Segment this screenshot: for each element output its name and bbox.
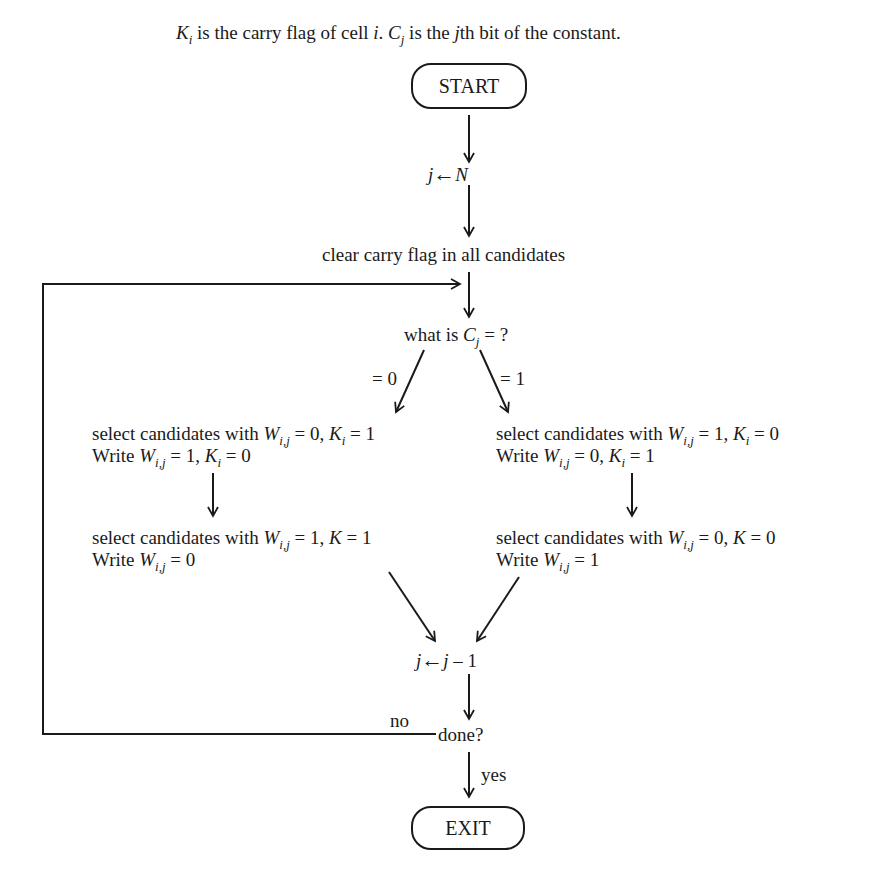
k-symbol: K: [329, 527, 342, 548]
decision-suffix: = ?: [479, 324, 508, 345]
assign-arrow-icon: ←: [433, 161, 455, 186]
w-subscript: i,j: [559, 559, 569, 574]
text: = 0: [749, 423, 779, 444]
w-subscript: i,j: [559, 455, 569, 470]
w-symbol: W: [543, 549, 559, 570]
right-step2-select: select candidates with Wi,j = 0, K = 0: [496, 527, 775, 549]
init-rhs: N: [455, 164, 468, 185]
text: = 0: [746, 527, 776, 548]
arrow-right-to-decrement: [477, 577, 519, 641]
w-symbol: W: [543, 445, 559, 466]
left-step2-write: Write Wi,j = 0: [92, 549, 371, 571]
assign-arrow-icon: ←: [421, 647, 443, 672]
w-symbol: W: [263, 423, 279, 444]
text: = 0: [166, 549, 196, 570]
clear-carry-step: clear carry flag in all candidates: [322, 244, 565, 266]
decision-node: what is Cj = ?: [404, 324, 508, 346]
text: = 1: [625, 445, 655, 466]
w-subscript: i,j: [155, 559, 165, 574]
w-symbol: W: [139, 445, 155, 466]
w-symbol: W: [667, 423, 683, 444]
k-symbol: K: [609, 445, 622, 466]
text: = 1,: [290, 527, 329, 548]
text: = 0,: [694, 527, 733, 548]
w-subscript: i,j: [155, 455, 165, 470]
loop-back-line: [43, 284, 460, 734]
k-symbol: K: [733, 423, 746, 444]
text: select candidates with: [92, 527, 263, 548]
w-symbol: W: [139, 549, 155, 570]
c-symbol: C: [388, 22, 401, 43]
start-terminal: START: [411, 63, 527, 109]
left-step1-select: select candidates with Wi,j = 0, Ki = 1: [92, 423, 375, 445]
right-step2-write: Write Wi,j = 1: [496, 549, 775, 571]
start-label: START: [439, 75, 500, 98]
exit-terminal: EXIT: [411, 806, 525, 850]
text: = 0,: [570, 445, 609, 466]
w-subscript: i,j: [279, 537, 289, 552]
w-symbol: W: [263, 527, 279, 548]
header-text-3: is the: [404, 22, 454, 43]
decision-c-symbol: C: [463, 324, 476, 345]
left-step1-write: Write Wi,j = 1, Ki = 0: [92, 445, 375, 467]
text: Write: [92, 445, 139, 466]
decrement-step: j←j – 1: [416, 649, 477, 672]
text: = 1: [570, 549, 600, 570]
right-step1-select: select candidates with Wi,j = 1, Ki = 0: [496, 423, 779, 445]
branch-zero-label: = 0: [372, 368, 397, 390]
header-text-2: .: [379, 22, 389, 43]
k-symbol: K: [733, 527, 746, 548]
right-step1-write: Write Wi,j = 0, Ki = 1: [496, 445, 779, 467]
no-label: no: [390, 710, 409, 732]
header-text-1: is the carry flag of cell: [192, 22, 373, 43]
text: = 1: [342, 527, 372, 548]
w-subscript: i,j: [279, 433, 289, 448]
init-step: j←N: [428, 163, 468, 186]
branch-one-label: = 1: [500, 368, 525, 390]
right-step2: select candidates with Wi,j = 0, K = 0 W…: [496, 527, 775, 571]
w-subscript: i,j: [683, 433, 693, 448]
exit-label: EXIT: [445, 817, 491, 840]
text: select candidates with: [496, 527, 667, 548]
decrement-rhs-op: – 1: [449, 650, 478, 671]
right-step1: select candidates with Wi,j = 1, Ki = 0 …: [496, 423, 779, 467]
header-text-4: th bit of the constant.: [460, 22, 621, 43]
text: Write: [496, 445, 543, 466]
text: = 0,: [290, 423, 329, 444]
arrow-left-to-decrement: [389, 572, 435, 641]
left-step2-select: select candidates with Wi,j = 1, K = 1: [92, 527, 371, 549]
text: = 0: [221, 445, 251, 466]
w-symbol: W: [667, 527, 683, 548]
text: = 1,: [166, 445, 205, 466]
text: select candidates with: [92, 423, 263, 444]
done-decision: done?: [438, 724, 483, 746]
decision-prefix: what is: [404, 324, 463, 345]
k-symbol: K: [176, 22, 189, 43]
left-step1: select candidates with Wi,j = 0, Ki = 1 …: [92, 423, 375, 467]
k-symbol: K: [205, 445, 218, 466]
w-subscript: i,j: [683, 537, 693, 552]
text: = 1,: [694, 423, 733, 444]
header-caption: Ki is the carry flag of cell i. Cj is th…: [176, 22, 621, 44]
text: Write: [92, 549, 139, 570]
arrow-branch-zero: [396, 350, 424, 412]
text: Write: [496, 549, 543, 570]
left-step2: select candidates with Wi,j = 1, K = 1 W…: [92, 527, 371, 571]
text: = 1: [345, 423, 375, 444]
k-symbol: K: [329, 423, 342, 444]
text: select candidates with: [496, 423, 667, 444]
yes-label: yes: [481, 764, 506, 786]
clear-carry-label: clear carry flag in all candidates: [322, 244, 565, 265]
